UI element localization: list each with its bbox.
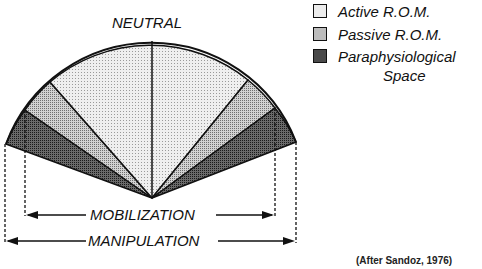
citation: (After Sandoz, 1976) — [356, 255, 452, 266]
legend-swatch-active — [313, 4, 327, 18]
manipulation-label: MANIPULATION — [88, 232, 199, 249]
legend-swatch-passive — [313, 27, 327, 41]
arrow-right-icon — [262, 211, 274, 219]
legend-swatch-paraphysiological — [313, 49, 327, 63]
legend-label-space: Space — [383, 67, 426, 84]
legend-label-passive: Passive R.O.M. — [338, 26, 442, 43]
arrow-left-icon — [6, 237, 18, 245]
arrow-right-icon — [283, 237, 295, 245]
neutral-label: NEUTRAL — [112, 14, 182, 31]
legend-label-active: Active R.O.M. — [338, 3, 431, 20]
arrow-left-icon — [26, 211, 38, 219]
legend-label-paraphysiological: Paraphysiological — [338, 48, 456, 65]
mobilization-label: MOBILIZATION — [90, 206, 195, 223]
